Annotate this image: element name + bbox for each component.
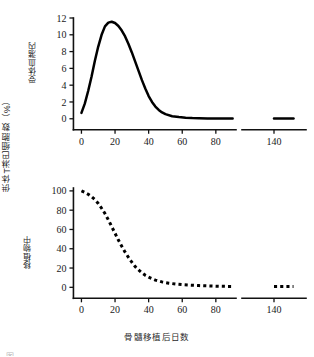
x-tick-label: 80 xyxy=(211,304,221,315)
bottom-chart-svg: 020406080100020406080140 xyxy=(0,168,314,346)
y-tick-label: 2 xyxy=(61,97,66,108)
y-tick-label: 12 xyxy=(56,13,66,24)
y-tick-label: 8 xyxy=(61,46,66,57)
figure-container: 供体T淋巴细胞数（%） 受体血潴内 移植物中 02468101202040608… xyxy=(0,0,314,357)
top-chart-panel: 024681012020406080140 xyxy=(0,0,314,170)
x-tick-label: 60 xyxy=(177,136,187,147)
x-tick-label: 0 xyxy=(79,304,84,315)
x-tick-label: 20 xyxy=(110,304,120,315)
x-tick-label: 0 xyxy=(79,136,84,147)
y-tick-label: 6 xyxy=(61,63,66,74)
y-tick-label: 100 xyxy=(51,185,66,196)
data-curve xyxy=(81,191,232,287)
y-tick-label: 80 xyxy=(56,205,66,216)
y-tick-label: 4 xyxy=(61,80,66,91)
x-tick-label: 140 xyxy=(267,304,282,315)
shared-x-axis-label: 骨髓移植后日数 xyxy=(0,330,314,342)
top-chart-svg: 024681012020406080140 xyxy=(0,0,314,170)
y-tick-label: 10 xyxy=(56,29,66,40)
y-tick-label: 60 xyxy=(56,224,66,235)
y-tick-label: 20 xyxy=(56,263,66,274)
x-tick-label: 60 xyxy=(177,304,187,315)
y-tick-label: 0 xyxy=(61,282,66,293)
x-tick-label: 20 xyxy=(110,136,120,147)
x-tick-label: 140 xyxy=(267,136,282,147)
x-tick-label: 40 xyxy=(144,304,154,315)
bottom-chart-panel: 020406080100020406080140 xyxy=(0,168,314,346)
x-tick-label: 80 xyxy=(211,136,221,147)
caption-sliver: 图 xyxy=(6,350,306,356)
y-tick-label: 0 xyxy=(61,113,66,124)
data-curve xyxy=(81,22,232,119)
x-tick-label: 40 xyxy=(144,136,154,147)
y-tick-label: 40 xyxy=(56,243,66,254)
